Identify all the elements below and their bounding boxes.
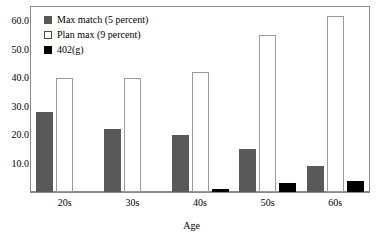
y-axis-tick-label: 20.0 — [1, 130, 29, 140]
y-axis-tick-label: 50.0 — [1, 45, 29, 55]
x-axis-baseline — [30, 192, 370, 193]
legend-entry-max-match: Max match (5 percent) — [44, 12, 214, 27]
bar — [104, 129, 121, 192]
bar — [212, 189, 229, 192]
white-square-icon — [44, 31, 52, 39]
bar — [327, 16, 344, 192]
bar — [239, 149, 256, 192]
bar — [192, 72, 209, 192]
x-axis-tick-label: 20s — [58, 198, 72, 208]
legend-entry-plan-max: Plan max (9 percent) — [44, 27, 214, 42]
y-axis-tick-label: 10.0 — [1, 159, 29, 169]
legend-label: Plan max (9 percent) — [57, 30, 141, 40]
y-axis-tick-labels: 10.020.030.040.050.060.0 — [0, 0, 29, 239]
bar — [36, 112, 53, 192]
bar — [279, 183, 296, 192]
y-axis-tick-label: 30.0 — [1, 102, 29, 112]
gray-square-icon — [44, 16, 52, 24]
legend-label: 402(g) — [57, 45, 84, 55]
legend-entry-402g: 402(g) — [44, 42, 214, 57]
x-axis-tick-label: 50s — [261, 198, 275, 208]
black-square-icon — [44, 46, 52, 54]
bar — [259, 35, 276, 192]
bar — [307, 166, 324, 192]
bar — [172, 135, 189, 192]
bar-chart-figure: 10.020.030.040.050.060.0 20s30s40s50s60s… — [0, 0, 383, 239]
y-axis-tick-label: 60.0 — [1, 16, 29, 26]
y-axis-tick-label: 40.0 — [1, 73, 29, 83]
bar — [124, 78, 141, 192]
chart-legend: Max match (5 percent) Plan max (9 percen… — [44, 12, 214, 57]
x-axis-tick-label: 30s — [125, 198, 139, 208]
legend-label: Max match (5 percent) — [57, 15, 148, 25]
bar-group — [239, 7, 296, 192]
x-axis-tick-label: 40s — [193, 198, 207, 208]
x-axis-tick-label: 60s — [328, 198, 342, 208]
x-axis-title: Age — [0, 220, 383, 231]
bar — [56, 78, 73, 192]
bar — [347, 181, 364, 192]
bar-group — [307, 7, 364, 192]
